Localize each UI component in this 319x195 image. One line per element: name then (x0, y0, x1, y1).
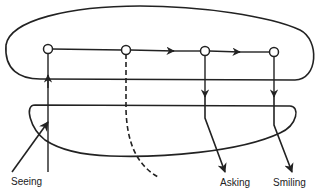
chain-line-1-2 (52, 49, 122, 50)
lower-region-outline (29, 105, 296, 156)
asking-output-line (205, 96, 225, 172)
node-1 (44, 45, 53, 54)
node-4 (270, 48, 279, 57)
chain-line-3-4 (209, 51, 240, 52)
chain-line-2-3 (130, 50, 174, 51)
node-2 (122, 46, 131, 55)
smiling-output-line (274, 96, 292, 172)
diagram-canvas (0, 0, 319, 195)
dashed-branch-line (126, 54, 160, 178)
label-seeing: Seeing (11, 176, 42, 187)
node-3 (201, 47, 210, 56)
label-smiling: Smiling (273, 177, 306, 188)
label-asking: Asking (220, 177, 250, 188)
upper-region-outline (6, 6, 314, 80)
seeing-diagonal-arrow (12, 122, 48, 172)
